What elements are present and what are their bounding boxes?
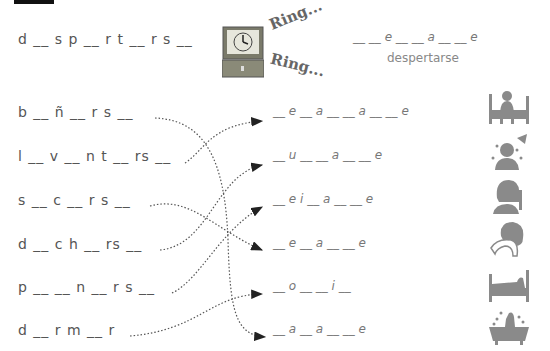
shower-icon [487, 132, 531, 170]
bathtub-icon [487, 307, 531, 345]
combing-hair-icon [487, 176, 531, 214]
towel-drying-icon [487, 220, 531, 258]
matching-lines [0, 0, 550, 351]
waking-in-bed-icon [487, 88, 531, 126]
sleeping-in-bed-icon [487, 268, 531, 306]
